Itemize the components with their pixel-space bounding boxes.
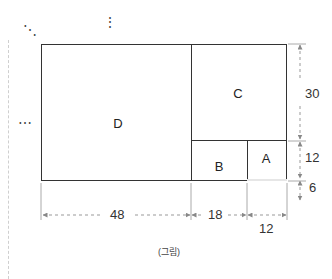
dim-6: 6 <box>309 181 316 194</box>
dimension-lines <box>0 0 332 279</box>
dim-30: 30 <box>305 87 319 100</box>
figure-caption: (그림) <box>158 245 180 258</box>
shaded-region <box>247 180 287 181</box>
dim-12-bottom: 12 <box>259 222 273 235</box>
dim-48: 48 <box>110 208 124 221</box>
dim-18: 18 <box>208 208 222 221</box>
dim-12-right: 12 <box>305 151 319 164</box>
